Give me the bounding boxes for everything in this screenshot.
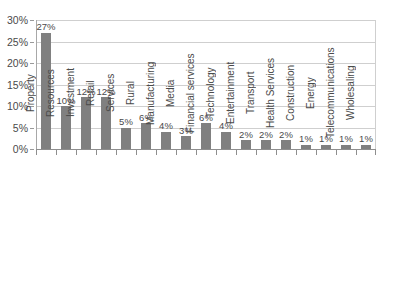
x-axis-tick-cell [356, 150, 376, 155]
x-axis-category-label: Media [156, 30, 176, 156]
x-axis-category-label: Manufacturing [136, 30, 156, 156]
x-axis-category-label: Technology [196, 30, 216, 156]
x-axis-category-label: Energy [296, 30, 316, 156]
x-axis-label-cell: Health Services [276, 156, 296, 284]
bar[interactable]: 1% [361, 145, 372, 149]
x-axis-label-cell: Services [116, 156, 136, 284]
x-axis-label-cell: Property [36, 156, 56, 284]
x-axis-label-cell: Rural [136, 156, 156, 284]
bar-value-label: 1% [359, 134, 373, 144]
bar-chart: 0%5%10%15%20%25%30% 27%10%12%12%5%6%4%3%… [0, 0, 396, 284]
bar-slot: 1% [356, 20, 376, 149]
x-axis-label-cell: Investment [76, 156, 96, 284]
x-axis-category-label: Services [96, 30, 116, 156]
x-axis-label-cell: Technology [216, 156, 236, 284]
x-axis-label-cell: Wholesaling [356, 156, 376, 284]
x-axis-category-label: Health Services [256, 30, 276, 156]
x-axis-category-label: Property [16, 30, 36, 156]
x-axis-category-label: Construction [276, 30, 296, 156]
x-axis-category-label: Transport [236, 30, 256, 156]
x-axis-category-label: Investment [56, 30, 76, 156]
x-axis-label-cell: Telecommunications [336, 156, 356, 284]
x-axis-category-label: Retail [76, 30, 96, 156]
x-axis-label-cell: Retail [96, 156, 116, 284]
x-axis-category-label: Resources [36, 30, 56, 156]
x-axis-label-cell: Entertainment [236, 156, 256, 284]
x-axis-category-label: Rural [116, 30, 136, 156]
x-axis-label-cell: Media [176, 156, 196, 284]
x-axis-label-cell: Transport [256, 156, 276, 284]
x-axis-label-cell: Manufacturing [156, 156, 176, 284]
y-axis-tick-mark [30, 20, 34, 21]
x-axis-tick-mark [375, 150, 376, 155]
x-axis-category-label: Telecommunications [316, 30, 336, 156]
x-axis-label-cell: Construction [296, 156, 316, 284]
y-axis-tick-label: 30% [7, 15, 28, 26]
x-axis-category-label: Wholesaling [336, 30, 356, 156]
x-axis-labels: PropertyResourcesInvestmentRetailService… [36, 156, 376, 284]
x-axis-category-label: Entertainment [216, 30, 236, 156]
x-axis-label-cell: Resources [56, 156, 76, 284]
x-axis-label-cell: Financial services [196, 156, 216, 284]
x-axis-label-cell: Energy [316, 156, 336, 284]
x-axis-tick-mark [356, 150, 357, 155]
x-axis-category-label: Financial services [176, 30, 196, 156]
